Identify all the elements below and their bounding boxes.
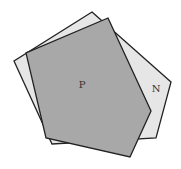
overlapping-pentagons-diagram: N P	[0, 0, 181, 169]
pentagon-p	[26, 18, 151, 157]
label-p: P	[79, 79, 86, 90]
label-n: N	[152, 83, 161, 94]
